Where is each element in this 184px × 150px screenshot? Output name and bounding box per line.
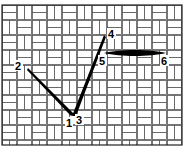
point-label-3: 3 xyxy=(75,114,84,126)
svg-text:5: 5 xyxy=(99,55,105,67)
svg-text:4: 4 xyxy=(108,28,115,40)
svg-text:3: 3 xyxy=(76,114,82,126)
point-label-2: 2 xyxy=(14,60,23,72)
canvas-mesh xyxy=(2,5,182,145)
svg-text:2: 2 xyxy=(15,60,21,72)
point-label-6: 6 xyxy=(160,55,169,67)
point-label-5: 5 xyxy=(98,55,107,67)
point-label-4: 4 xyxy=(107,28,116,40)
point-label-1: 1 xyxy=(65,117,73,129)
svg-text:1: 1 xyxy=(66,117,72,129)
svg-text:6: 6 xyxy=(161,55,167,67)
stitch-diagram: 2 1 3 4 5 6 xyxy=(0,0,184,150)
